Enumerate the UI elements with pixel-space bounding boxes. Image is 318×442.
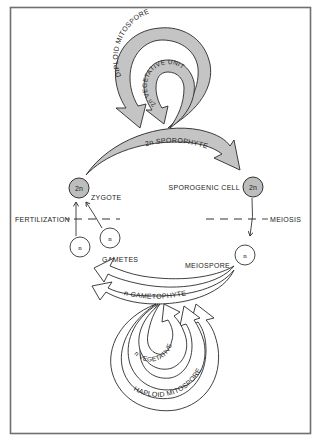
gamete-cell-2: n bbox=[100, 228, 120, 248]
sporogenic-cell-label: SPOROGENIC CELL bbox=[169, 184, 240, 191]
life-cycle-diagram: DIPLOID MITOSPORE 2n VEGETATIVE UNIT 2n … bbox=[0, 0, 318, 442]
meiospore-cell: n bbox=[235, 245, 255, 265]
zygote-label: ZYGOTE bbox=[91, 194, 122, 201]
svg-text:2n: 2n bbox=[75, 185, 83, 192]
meiospore-label: MEIOSPORE bbox=[185, 262, 230, 269]
zygote-cell: 2n bbox=[69, 178, 89, 198]
sporophyte-arrow bbox=[86, 128, 240, 175]
svg-text:n: n bbox=[108, 235, 112, 243]
svg-text:n: n bbox=[78, 244, 82, 252]
meiosis-arrow bbox=[250, 198, 253, 236]
fertilization-label: FERTILIZATION bbox=[15, 216, 70, 223]
gamete-cell-1: n bbox=[70, 237, 90, 257]
gamete-2-to-zygote-arrow bbox=[86, 202, 102, 228]
svg-text:n: n bbox=[243, 252, 247, 260]
svg-text:2n: 2n bbox=[249, 184, 257, 191]
sporogenic-cell: 2n bbox=[243, 177, 263, 197]
meiosis-label: MEIOSIS bbox=[270, 216, 301, 223]
